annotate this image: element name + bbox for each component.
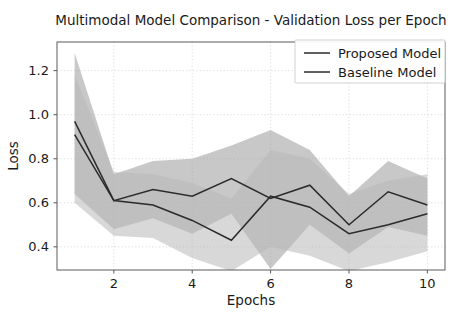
y-tick-labels: 0.40.60.81.01.2	[28, 63, 49, 254]
chart-title: Multimodal Model Comparison - Validation…	[55, 12, 446, 28]
y-tick-label-3: 1.0	[28, 107, 49, 122]
chart-canvas: 0.40.60.81.01.2 246810 Multimodal Model …	[0, 0, 466, 322]
x-tick-label-2: 6	[266, 276, 274, 291]
y-tick-label-1: 0.6	[28, 195, 49, 210]
x-axis-title: Epochs	[227, 292, 275, 308]
y-tick-label-2: 0.8	[28, 151, 49, 166]
y-axis-title: Loss	[5, 141, 21, 171]
y-tick-label-0: 0.4	[28, 239, 49, 254]
x-tick-label-3: 8	[345, 276, 353, 291]
x-tick-label-0: 2	[110, 276, 118, 291]
x-tick-label-1: 4	[188, 276, 196, 291]
legend-label-baseline: Baseline Model	[338, 65, 436, 80]
legend-label-proposed: Proposed Model	[338, 46, 441, 61]
x-tick-label-4: 10	[419, 276, 436, 291]
legend[interactable]: Proposed Model Baseline Model	[295, 40, 445, 83]
chart-figure: 0.40.60.81.01.2 246810 Multimodal Model …	[0, 0, 466, 322]
y-tick-label-4: 1.2	[28, 63, 49, 78]
x-tick-labels: 246810	[110, 276, 436, 291]
